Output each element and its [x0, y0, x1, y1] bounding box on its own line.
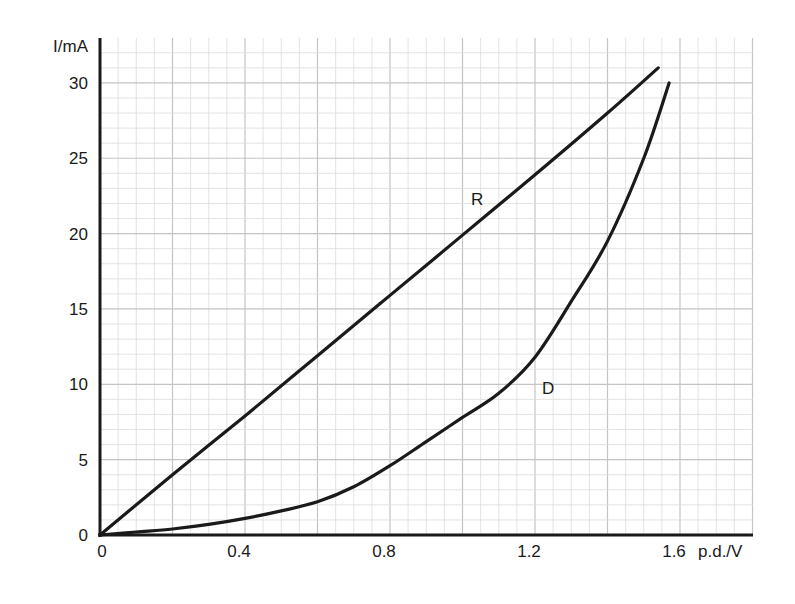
y-tick-label: 20	[69, 225, 88, 244]
x-tick-label: 0.4	[227, 542, 251, 561]
x-tick-label: 0	[97, 542, 106, 561]
x-axis-title: p.d./V	[698, 542, 743, 561]
x-tick-labels: 00.40.81.21.6	[97, 542, 686, 561]
x-tick-label: 0.8	[372, 542, 396, 561]
y-tick-label: 25	[69, 149, 88, 168]
iv-characteristic-chart: 051015202530 00.40.81.21.6 I/mA p.d./V R…	[0, 0, 795, 604]
y-tick-labels: 051015202530	[69, 74, 88, 545]
y-tick-label: 5	[79, 451, 88, 470]
grid	[100, 38, 753, 535]
y-tick-label: 30	[69, 74, 88, 93]
x-tick-label: 1.2	[517, 542, 541, 561]
y-tick-label: 10	[69, 375, 88, 394]
y-tick-label: 0	[79, 526, 88, 545]
curve-label-r: R	[471, 190, 483, 209]
y-axis-title: I/mA	[53, 37, 89, 56]
curve-r	[100, 68, 658, 535]
y-tick-label: 15	[69, 300, 88, 319]
curve-label-d: D	[542, 379, 554, 398]
x-tick-label: 1.6	[662, 542, 686, 561]
curves	[100, 68, 669, 535]
